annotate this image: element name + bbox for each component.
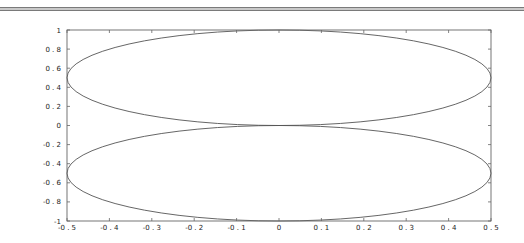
x-tick-label: 0	[277, 224, 281, 232]
x-tick-label: 0 . 1	[314, 224, 330, 232]
series-lower-ellipse	[67, 126, 491, 222]
x-tick-label: -0 . 1	[228, 224, 246, 232]
y-tick-label: 1	[57, 27, 61, 35]
y-tick-label: 0 . 8	[45, 46, 61, 54]
x-tick-label: 0 . 4	[441, 224, 457, 232]
y-tick-label: 0 . 4	[45, 84, 61, 92]
y-tick-label: -0 . 4	[43, 160, 62, 168]
ellipse-plot: -0 . 5-0 . 4-0 . 3-0 . 2-0 . 100 . 10 . …	[0, 0, 524, 243]
x-tick-label: -0 . 3	[143, 224, 161, 232]
x-tick-label: -0 . 2	[185, 224, 203, 232]
y-tick-label: -0 . 8	[43, 198, 61, 206]
y-tick-label: -0 . 6	[43, 179, 62, 187]
x-tick-label: 0 . 5	[483, 224, 499, 232]
x-tick-label: -0 . 4	[100, 224, 119, 232]
y-tick-label: 0 . 6	[45, 65, 61, 73]
x-tick-label: 0 . 3	[398, 224, 414, 232]
y-tick-label: -1	[54, 218, 61, 226]
y-tick-label: 0	[57, 122, 61, 130]
series-upper-ellipse	[67, 30, 491, 126]
y-tick-label: 0 . 2	[45, 103, 61, 111]
y-tick-label: -0 . 2	[43, 141, 61, 149]
x-tick-label: 0 . 2	[356, 224, 372, 232]
